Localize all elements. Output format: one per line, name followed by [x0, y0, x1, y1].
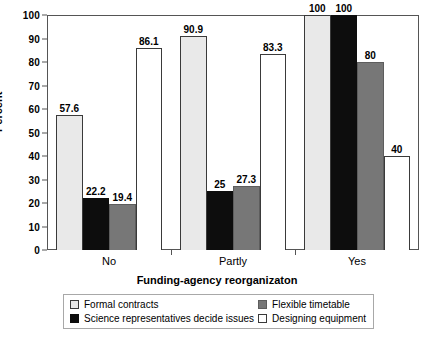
bar-slot: 100 — [331, 15, 358, 250]
y-tick-label: 0 — [34, 245, 40, 256]
bar[interactable]: 40 — [384, 156, 411, 250]
plot-area: 57.622.219.486.190.92527.383.31001008040 — [47, 15, 419, 250]
y-tick-label: 70 — [28, 80, 40, 91]
legend-swatch — [258, 314, 267, 323]
y-tick-label: 60 — [28, 104, 40, 115]
chart-figure: Percent 0102030405060708090100 57.622.21… — [0, 0, 434, 348]
y-axis-ticks: 0102030405060708090100 — [0, 15, 47, 250]
bar-slot: 83.3 — [260, 15, 287, 250]
bar-group: 90.92527.383.3 — [171, 15, 295, 250]
bar-group: 1001008040 — [295, 15, 419, 250]
bar-value-label: 57.6 — [60, 103, 79, 114]
legend-label: Science representatives decide issues — [84, 312, 254, 326]
y-tick-label: 10 — [28, 221, 40, 232]
bar[interactable]: 57.6 — [56, 115, 83, 250]
legend-label: Formal contracts — [84, 298, 158, 312]
bar-group: 57.622.219.486.1 — [47, 15, 171, 250]
bar-value-label: 80 — [365, 50, 376, 61]
y-tick-label: 30 — [28, 174, 40, 185]
legend-swatch — [258, 300, 267, 309]
y-tick-label: 20 — [28, 198, 40, 209]
x-tick-label: Yes — [295, 255, 419, 267]
bar-value-label: 90.9 — [184, 24, 203, 35]
legend: Formal contractsFlexible timetableScienc… — [63, 294, 374, 329]
bar[interactable]: 80 — [357, 62, 384, 250]
bar[interactable]: 100 — [331, 15, 358, 250]
bar-slot: 22.2 — [83, 15, 110, 250]
bar-value-label: 100 — [335, 3, 352, 14]
bar[interactable]: 19.4 — [109, 204, 136, 250]
bar-value-label: 100 — [309, 3, 326, 14]
legend-item[interactable]: Flexible timetable — [258, 298, 367, 312]
x-axis-title: Funding-agency reorganizaton — [0, 274, 434, 286]
legend-item[interactable]: Formal contracts — [70, 298, 254, 312]
bar-value-label: 83.3 — [263, 42, 282, 53]
x-tick-label: Partly — [171, 255, 295, 267]
y-tick-label: 50 — [28, 127, 40, 138]
bar-groups: 57.622.219.486.190.92527.383.31001008040 — [47, 15, 419, 250]
bar[interactable]: 83.3 — [260, 54, 287, 250]
legend-label: Flexible timetable — [272, 298, 350, 312]
bar-slot: 90.9 — [180, 15, 207, 250]
bar-slot: 86.1 — [136, 15, 163, 250]
bar[interactable]: 90.9 — [180, 36, 207, 250]
bar-slot: 100 — [304, 15, 331, 250]
bar-slot: 19.4 — [109, 15, 136, 250]
bar[interactable]: 86.1 — [136, 48, 163, 250]
bar[interactable]: 27.3 — [233, 186, 260, 250]
bar-slot: 27.3 — [233, 15, 260, 250]
bar[interactable]: 22.2 — [83, 198, 110, 250]
bar-value-label: 22.2 — [86, 186, 105, 197]
bar-value-label: 25 — [214, 179, 225, 190]
x-axis-categories: NoPartlyYes — [47, 255, 419, 267]
bar-value-label: 40 — [391, 144, 402, 155]
legend-swatch — [70, 300, 79, 309]
bar[interactable]: 100 — [304, 15, 331, 250]
bar-slot: 40 — [384, 15, 411, 250]
bar-value-label: 86.1 — [139, 36, 158, 47]
bar-slot: 80 — [357, 15, 384, 250]
legend-label: Designing equipment — [272, 312, 366, 326]
y-tick-label: 80 — [28, 57, 40, 68]
bar[interactable]: 25 — [207, 191, 234, 250]
y-tick-label: 90 — [28, 33, 40, 44]
bar-value-label: 19.4 — [113, 192, 132, 203]
bar-slot: 25 — [207, 15, 234, 250]
bar-value-label: 27.3 — [237, 174, 256, 185]
y-tick-label: 40 — [28, 151, 40, 162]
x-tick-label: No — [47, 255, 171, 267]
legend-swatch — [70, 314, 79, 323]
y-tick-label: 100 — [23, 10, 40, 21]
legend-item[interactable]: Designing equipment — [258, 312, 367, 326]
legend-item[interactable]: Science representatives decide issues — [70, 312, 254, 326]
bar-slot: 57.6 — [56, 15, 83, 250]
